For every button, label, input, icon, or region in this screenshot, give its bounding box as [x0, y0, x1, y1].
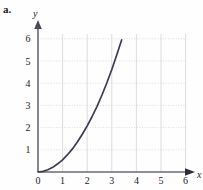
y-tick-label: 1 [26, 144, 31, 155]
y-tick-label: 3 [26, 100, 31, 111]
axes [34, 20, 195, 176]
x-axis-tick-labels: 0123456 [36, 175, 189, 186]
y-tick-label: 6 [26, 33, 31, 44]
x-tick-label: 1 [60, 175, 65, 186]
y-tick-label: 4 [26, 78, 31, 89]
x-tick-label: 0 [36, 175, 41, 186]
y-axis-arrow-icon [34, 20, 42, 29]
x-tick-label: 6 [183, 175, 188, 186]
data-series-curve [38, 40, 122, 172]
x-tick-label: 2 [85, 175, 90, 186]
y-axis-tick-labels: 123456 [26, 33, 31, 155]
x-tick-label: 5 [159, 175, 164, 186]
vertical-gridlines [63, 34, 186, 172]
y-tick-label: 5 [26, 56, 31, 67]
chart-plot: 123456 0123456 y x [0, 0, 203, 190]
figure-container: a. 123456 0123456 y x [0, 0, 203, 190]
x-axis-label: x [196, 169, 202, 180]
y-tick-label: 2 [26, 122, 31, 133]
y-axis-label: y [32, 8, 38, 19]
x-tick-label: 3 [109, 175, 114, 186]
x-tick-label: 4 [134, 175, 139, 186]
